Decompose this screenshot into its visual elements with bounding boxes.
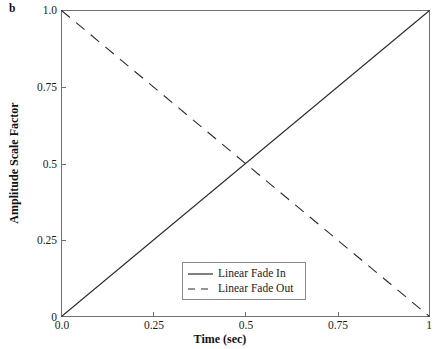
legend-line-dashed-icon [187, 283, 214, 295]
panel-label: b [9, 2, 15, 15]
x-tick-label-00: 0.0 [55, 319, 69, 331]
legend-entry-fade-out: Linear Fade Out [187, 281, 300, 296]
legend-entry-fade-in: Linear Fade In [187, 266, 300, 281]
legend-line-solid-icon [187, 268, 214, 280]
legend-label-fade-in: Linear Fade In [214, 267, 286, 280]
x-axis-title: Time (sec) [0, 332, 440, 347]
legend[interactable]: Linear Fade In Linear Fade Out [182, 262, 306, 300]
y-tick-label-075: 0.75 [37, 81, 57, 93]
legend-label-fade-out: Linear Fade Out [214, 282, 293, 295]
y-tick-label-1: 1.0 [43, 4, 57, 16]
x-tick-label-1: 1 [426, 319, 432, 331]
x-tick-label-025: 0.25 [144, 319, 164, 331]
x-tick-label-075: 0.75 [328, 319, 348, 331]
y-axis-title: Amplitude Scale Factor [7, 102, 22, 223]
y-tick-label-05: 0.5 [43, 158, 57, 170]
y-tick-label-025: 0.25 [37, 234, 57, 246]
x-tick-label-05: 0.5 [239, 319, 253, 331]
figure-panel-b: b 1.0 0.75 0.5 0.25 0 0.0 0.25 0.5 0.75 … [0, 0, 440, 349]
